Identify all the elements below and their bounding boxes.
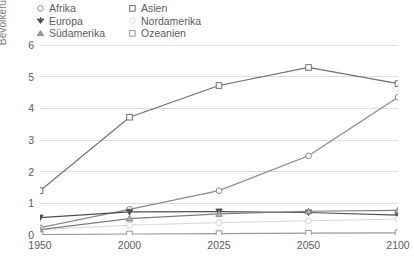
y-axis-ticks: 6 5 4 3 2 1 0 (10, 45, 34, 235)
y-tick-label: 1 (12, 198, 34, 209)
triangle-up-icon (36, 29, 45, 38)
legend-item-afrika[interactable]: Afrika (36, 2, 128, 15)
x-tick-label: 2050 (286, 240, 332, 251)
legend-item-suedamerika[interactable]: Südamerika (36, 27, 128, 40)
triangle-down-icon (36, 16, 45, 25)
series-ozeanien (40, 230, 398, 235)
y-axis-title: Bevölkerung in Milliarden (0, 0, 8, 58)
legend-label: Südamerika (49, 28, 105, 39)
legend-label: Asien (141, 3, 167, 14)
series-nordamerika (40, 216, 398, 232)
legend-label: Nordamerika (141, 16, 201, 27)
legend-item-europa[interactable]: Europa (36, 15, 128, 28)
circle-icon (36, 4, 45, 13)
legend-label: Ozeanien (141, 28, 186, 39)
x-axis-ticks: 1950 2000 2025 2050 2100 (40, 240, 398, 256)
legend-item-asien[interactable]: Asien (128, 2, 201, 15)
legend-item-ozeanien[interactable]: Ozeanien (128, 27, 201, 40)
x-tick-label: 2000 (107, 240, 153, 251)
y-tick-label: 6 (12, 40, 34, 51)
circle-faint-icon (128, 16, 137, 25)
x-tick-label: 2025 (196, 240, 242, 251)
square-icon (128, 4, 137, 13)
legend-label: Afrika (49, 3, 76, 14)
square-icon (128, 29, 137, 38)
y-tick-label: 3 (12, 135, 34, 146)
legend-label: Europa (49, 16, 83, 27)
y-tick-label: 5 (12, 72, 34, 83)
chart-legend: Afrika Asien Europa Nordamerika Südameri (36, 2, 201, 40)
plot-svg (40, 45, 398, 235)
plot-area (40, 45, 398, 235)
x-tick-label: 2100 (375, 240, 414, 251)
x-tick-label: 1950 (17, 240, 63, 251)
legend-item-nordamerika[interactable]: Nordamerika (128, 15, 201, 28)
y-tick-label: 4 (12, 103, 34, 114)
series-asien (40, 65, 398, 194)
series-lines (40, 65, 398, 235)
y-tick-label: 2 (12, 167, 34, 178)
